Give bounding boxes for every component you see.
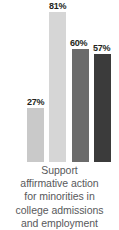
bar-4 — [94, 54, 111, 162]
bar-4-value-label: 57% — [93, 43, 110, 53]
caption-line-2: affirmative action — [0, 177, 119, 190]
caption-line-5: and employment — [0, 217, 119, 230]
chart-caption: Support affirmative action for minoritie… — [0, 164, 119, 230]
caption-line-4: college admissions — [0, 204, 119, 217]
bar-3 — [72, 49, 89, 162]
plot-area: 27% 81% 60% 57% — [0, 0, 119, 162]
caption-line-1: Support — [0, 164, 119, 177]
bar-1-value-label: 27% — [27, 97, 44, 107]
caption-line-3: for minorities in — [0, 190, 119, 203]
bar-1 — [27, 108, 44, 162]
bar-2 — [49, 12, 66, 162]
bar-3-value-label: 60% — [70, 38, 87, 48]
bar-chart-figure: 27% 81% 60% 57% Support affirmative acti… — [0, 0, 119, 230]
bar-2-value-label: 81% — [49, 1, 66, 11]
